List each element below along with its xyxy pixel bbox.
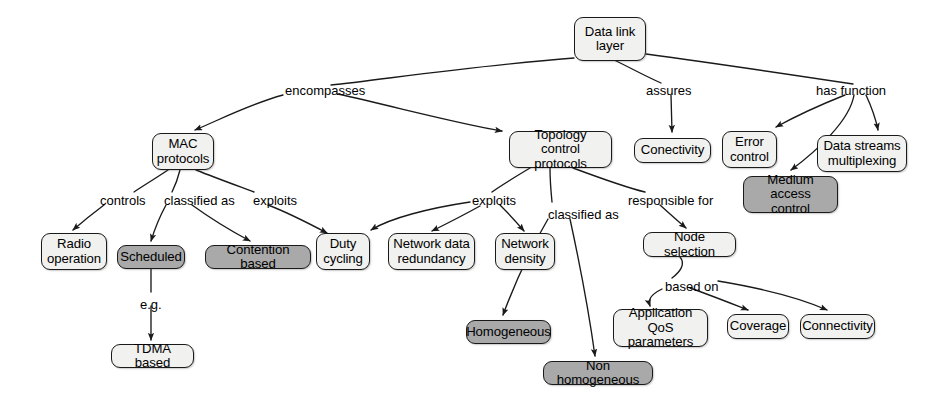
node-tdma-based[interactable]: TDMA based: [111, 344, 194, 368]
node-node-selection[interactable]: Node selection: [643, 232, 736, 257]
edge-exploits2-redundancy: [432, 206, 480, 231]
node-label-line: TDMA based: [116, 342, 189, 371]
edge-label-exploits-2: exploits: [472, 194, 516, 208]
node-radio-operation[interactable]: Radiooperation: [41, 233, 107, 270]
node-scheduled[interactable]: Scheduled: [117, 245, 185, 269]
edge-topology-classified2: [550, 168, 552, 202]
node-label-line: Connectivity: [802, 319, 873, 334]
edge-root-hasfunction: [646, 54, 853, 84]
node-label: ApplicationQoS parameters: [618, 306, 703, 350]
node-label: Data linklayer: [585, 25, 635, 54]
node-label-line: redundancy: [393, 252, 470, 267]
edge-classified-contention: [192, 205, 250, 241]
node-non-homogeneous[interactable]: Non homogeneous: [543, 361, 653, 385]
node-label-line: Network data: [393, 237, 470, 252]
node-network-density[interactable]: Networkdensity: [495, 233, 555, 270]
node-label: Scheduled: [120, 250, 181, 265]
edge-label-assures: assures: [646, 84, 692, 98]
node-label: Contention based: [210, 243, 306, 272]
edge-label-eg: e.g.: [140, 298, 162, 312]
node-label-line: MAC: [157, 137, 210, 152]
edge-label-classified-as-2: classified as: [548, 208, 619, 222]
node-data-streams-mux[interactable]: Data streamsmultiplexing: [817, 135, 907, 172]
node-label-line: multiplexing: [823, 154, 900, 169]
node-duty-cycling[interactable]: Dutycycling: [316, 233, 370, 270]
node-label-line: Error: [730, 135, 769, 150]
node-label-line: Contention based: [210, 243, 306, 272]
node-label-line: QoS parameters: [618, 321, 703, 350]
node-label: Radiooperation: [47, 237, 101, 266]
edge-basedon-connectivity: [718, 281, 827, 310]
node-label-line: Non homogeneous: [548, 359, 648, 388]
edge-encompasses-topology: [338, 94, 502, 131]
node-conectivity[interactable]: Conectivity: [634, 138, 711, 163]
node-connectivity[interactable]: Connectivity: [800, 314, 875, 339]
node-label-line: Radio: [47, 237, 101, 252]
node-label-line: protocols: [157, 152, 210, 167]
node-coverage[interactable]: Coverage: [727, 314, 789, 339]
node-error-control[interactable]: Errorcontrol: [722, 131, 777, 168]
node-application-qos[interactable]: ApplicationQoS parameters: [613, 309, 708, 347]
node-label: Node selection: [648, 230, 731, 259]
node-label-line: protocols: [514, 157, 607, 172]
node-label-line: Data link: [585, 25, 635, 40]
edge-basedon-appqos: [649, 289, 662, 306]
node-medium-access-control[interactable]: Medium accesscontrol: [743, 176, 838, 213]
node-label-line: Topology control: [514, 128, 607, 157]
node-mac-protocols[interactable]: MACprotocols: [152, 133, 214, 170]
node-label: Medium accesscontrol: [748, 173, 833, 217]
edge-exploits1-duty: [268, 205, 327, 233]
edge-root-assures: [614, 60, 661, 83]
node-network-data-redundancy[interactable]: Network dataredundancy: [388, 233, 475, 270]
node-label: Network dataredundancy: [393, 237, 470, 266]
edge-topology-responsible: [573, 168, 645, 192]
node-label-line: control: [748, 202, 833, 217]
node-homogeneous[interactable]: Homogeneous: [466, 320, 551, 344]
node-label-line: Network: [501, 237, 549, 252]
edge-topology-exploits: [492, 168, 530, 192]
edge-mac-exploits: [196, 170, 254, 192]
node-label: Data streamsmultiplexing: [823, 139, 900, 168]
node-label: Homogeneous: [466, 325, 551, 340]
node-label: Errorcontrol: [730, 135, 769, 164]
node-label-line: Coverage: [730, 319, 786, 334]
edge-classified-scheduled: [151, 205, 166, 241]
edge-label-controls: controls: [100, 194, 146, 208]
edge-hasfunction-streams: [866, 95, 878, 130]
node-label: MACprotocols: [157, 137, 210, 166]
edge-node-basedon: [672, 257, 682, 278]
edge-exploits2-density: [500, 205, 524, 231]
node-label-line: density: [501, 252, 549, 267]
node-label-line: cycling: [323, 252, 363, 267]
edge-hasfunction-error: [776, 95, 845, 127]
node-label-line: control: [730, 150, 769, 165]
node-label-line: layer: [585, 39, 635, 54]
edge-root-encompasses: [331, 58, 574, 85]
node-label: Non homogeneous: [548, 359, 648, 388]
edge-controls-radio: [73, 205, 104, 230]
node-label: Dutycycling: [323, 237, 363, 266]
node-contention-based[interactable]: Contention based: [205, 245, 311, 269]
node-label-line: Node selection: [648, 230, 731, 259]
edge-mac-classified: [172, 170, 180, 192]
node-label-line: operation: [47, 252, 101, 267]
edge-label-based-on: based on: [665, 280, 719, 294]
node-label: Coverage: [730, 319, 786, 334]
node-data-link-layer[interactable]: Data linklayer: [574, 17, 646, 61]
node-label-line: Scheduled: [120, 250, 181, 265]
edge-exploits2-duty: [371, 202, 470, 230]
node-label-line: Duty: [323, 237, 363, 252]
edge-encompasses-mac: [195, 95, 283, 130]
node-label: Networkdensity: [501, 237, 549, 266]
node-label-line: Data streams: [823, 139, 900, 154]
node-label-line: Homogeneous: [466, 325, 551, 340]
edge-label-exploits-1: exploits: [253, 194, 297, 208]
node-label-line: Application: [618, 306, 703, 321]
node-topology-control[interactable]: Topology controlprotocols: [509, 131, 612, 168]
node-label: Topology controlprotocols: [514, 128, 607, 172]
edge-responsible-node: [660, 205, 686, 228]
node-label-line: Medium access: [748, 173, 833, 202]
node-label: Conectivity: [641, 143, 704, 158]
edge-label-encompasses: encompasses: [285, 84, 365, 98]
edge-label-classified-as-1: classified as: [164, 194, 235, 208]
